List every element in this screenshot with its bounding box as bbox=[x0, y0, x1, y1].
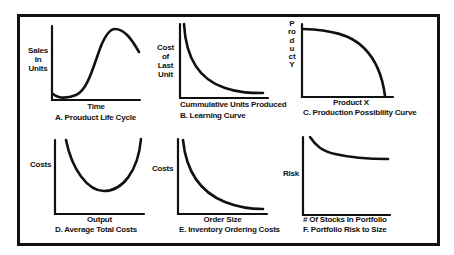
panel-a-title: A. Prouduct Life Cycle bbox=[55, 113, 136, 122]
panel-a-xlabel: Time bbox=[52, 102, 140, 111]
production-possibility-curve bbox=[303, 29, 385, 96]
panel-a-ylabel: Sales In Units bbox=[24, 46, 52, 73]
portfolio-risk-curve bbox=[310, 137, 388, 159]
ylabel-line: Units bbox=[24, 64, 52, 73]
panel-f-xlabel: # Of Stocks In Portfolio bbox=[303, 215, 387, 224]
ylabel-line: In bbox=[24, 55, 52, 64]
product-life-cycle-curve bbox=[53, 29, 139, 98]
panel-e-title: E. Inventory Ordering Costs bbox=[179, 225, 280, 234]
average-total-costs-curve bbox=[66, 139, 141, 191]
panel-e-xlabel: Order Size bbox=[178, 215, 267, 224]
panel-f-ylabel: Risk bbox=[283, 169, 299, 178]
panel-b-title: B. Learning Curve bbox=[180, 111, 246, 120]
ylabel-line: Sales bbox=[24, 46, 52, 55]
ylabel-line: of bbox=[153, 52, 178, 61]
panel-f-axes bbox=[303, 137, 390, 215]
panel-c-title: C. Production Possibility Curve bbox=[303, 108, 416, 117]
panel-d-ylabel: Costs bbox=[30, 160, 51, 169]
ylabel-line: Unit bbox=[153, 70, 178, 79]
panel-d-title: D. Average Total Costs bbox=[55, 225, 137, 234]
ylabel-line: Cost bbox=[153, 43, 178, 52]
panel-c-xlabel: Product X bbox=[333, 98, 369, 107]
panel-b-xlabel: Cummulative Units Produced bbox=[180, 100, 286, 109]
panel-f-title: F. Portfolio Risk to Size bbox=[303, 225, 386, 234]
ylabel-line: Last bbox=[153, 61, 178, 70]
panel-d-xlabel: Output bbox=[55, 215, 144, 224]
panel-c-ylabel: Product Y bbox=[288, 20, 296, 100]
learning-curve bbox=[184, 24, 263, 93]
inventory-ordering-costs-curve bbox=[183, 140, 263, 209]
panel-e-ylabel: Costs bbox=[152, 164, 173, 173]
panel-e-axes bbox=[178, 139, 267, 214]
panel-c-axes bbox=[302, 24, 393, 97]
panel-b-ylabel: Cost of Last Unit bbox=[153, 43, 178, 79]
